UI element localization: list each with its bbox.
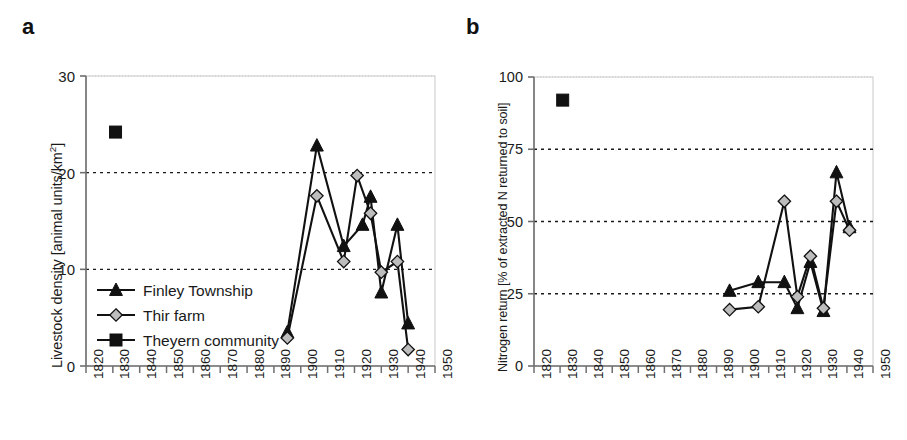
x-tick-label-1850: 1850 — [172, 349, 186, 379]
data-point-square — [110, 334, 122, 346]
legend-label-0: Finley Township — [143, 282, 253, 299]
x-tick-label-1930: 1930 — [387, 349, 401, 379]
panel-a: a Livestock density [animal units/km2] F… — [0, 0, 453, 440]
y-tick-label-75: 75 — [453, 142, 523, 157]
x-tick-label-1840: 1840 — [145, 349, 159, 379]
data-point-diamond — [778, 195, 790, 207]
x-tick-label-1920: 1920 — [360, 349, 374, 379]
data-point-triangle — [356, 218, 369, 230]
data-point-square — [110, 126, 122, 138]
plot-frame — [86, 76, 435, 366]
x-tick-label-1900: 1900 — [306, 349, 320, 379]
x-tick-label-1870: 1870 — [670, 349, 684, 379]
x-tick-label-1950: 1950 — [879, 349, 893, 379]
x-tick-label-1890: 1890 — [722, 349, 736, 379]
panel-b: b Nitrogen return [% of extracted N retu… — [453, 0, 907, 440]
x-tick-label-1830: 1830 — [566, 349, 580, 379]
x-tick-label-1950: 1950 — [441, 349, 455, 379]
y-tick-label-0: 0 — [453, 359, 523, 374]
x-tick-label-1940: 1940 — [414, 349, 428, 379]
y-tick-label-30: 30 — [0, 69, 75, 84]
y-tick-label-50: 50 — [453, 214, 523, 229]
data-point-triangle — [310, 139, 323, 151]
x-tick-label-1820: 1820 — [540, 349, 554, 379]
x-tick-label-1880: 1880 — [696, 349, 710, 379]
data-point-diamond — [752, 301, 764, 313]
x-tick-label-1920: 1920 — [800, 349, 814, 379]
y-tick-label-20: 20 — [0, 165, 75, 180]
x-tick-label-1860: 1860 — [199, 349, 213, 379]
x-tick-label-1840: 1840 — [592, 349, 606, 379]
legend-label-2: Theyern community — [143, 332, 279, 349]
data-point-diamond — [804, 250, 816, 262]
x-tick-label-1910: 1910 — [774, 349, 788, 379]
panel-b-plot-group — [528, 77, 873, 373]
data-point-diamond — [843, 224, 855, 236]
y-tick-label-25: 25 — [453, 287, 523, 302]
data-point-diamond — [351, 169, 363, 181]
x-tick-label-1930: 1930 — [826, 349, 840, 379]
x-tick-label-1910: 1910 — [333, 349, 347, 379]
data-point-triangle — [391, 218, 404, 230]
data-point-triangle — [830, 165, 843, 177]
legend-label-1: Thir farm — [143, 307, 205, 324]
figure-container: a Livestock density [animal units/km2] F… — [0, 0, 907, 440]
x-tick-label-1830: 1830 — [118, 349, 132, 379]
data-point-square — [557, 94, 569, 106]
x-tick-label-1850: 1850 — [618, 349, 632, 379]
x-tick-label-1870: 1870 — [226, 349, 240, 379]
x-tick-label-1880: 1880 — [253, 349, 267, 379]
y-tick-label-0: 0 — [0, 359, 75, 374]
x-tick-label-1890: 1890 — [279, 349, 293, 379]
data-point-diamond — [723, 303, 735, 315]
y-tick-label-100: 100 — [453, 70, 523, 85]
data-point-triangle — [364, 190, 377, 202]
data-point-diamond — [311, 190, 323, 202]
data-point-diamond — [830, 195, 842, 207]
x-tick-label-1860: 1860 — [644, 349, 658, 379]
y-tick-label-10: 10 — [0, 262, 75, 277]
data-point-diamond — [338, 255, 350, 267]
data-point-triangle — [375, 286, 388, 298]
x-tick-label-1900: 1900 — [748, 349, 762, 379]
x-tick-label-1820: 1820 — [92, 349, 106, 379]
data-point-diamond — [110, 309, 122, 321]
x-tick-label-1940: 1940 — [852, 349, 866, 379]
